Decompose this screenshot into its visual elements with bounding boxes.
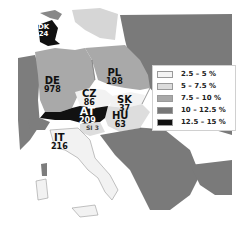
legend-item: 2.5 – 5 % xyxy=(157,69,216,79)
legend-item: 10 – 12.5 % xyxy=(157,105,226,115)
legend-swatch xyxy=(157,71,173,78)
label-at: AT 209 xyxy=(79,106,96,125)
legend-swatch xyxy=(157,95,173,102)
region-sweden xyxy=(40,10,62,20)
region-ch xyxy=(28,118,50,130)
region-sicily xyxy=(72,205,98,217)
label-it: IT 216 xyxy=(51,133,68,151)
legend-item: 12.5 – 15 % xyxy=(157,117,226,127)
region-corsica xyxy=(41,163,47,176)
region-sardinia xyxy=(36,179,48,200)
region-sweden-south xyxy=(72,8,118,40)
region-balkans xyxy=(100,128,200,210)
region-turkey xyxy=(190,160,232,195)
label-hu: HU 63 xyxy=(112,111,129,129)
legend-swatch xyxy=(157,107,173,114)
region-west xyxy=(18,55,40,150)
label-si: SI 3 xyxy=(86,125,99,131)
legend-swatch xyxy=(157,119,173,126)
label-dk: DK 24 xyxy=(38,24,49,38)
legend-swatch xyxy=(157,83,173,90)
legend-item: 5 – 7.5 % xyxy=(157,81,216,91)
legend-item: 7.5 – 10 % xyxy=(157,93,221,103)
legend: 2.5 – 5 % 5 – 7.5 % 7.5 – 10 % 10 – 12.5… xyxy=(152,65,236,131)
label-de: DE 978 xyxy=(44,76,61,94)
label-pl: PL 198 xyxy=(106,68,123,86)
